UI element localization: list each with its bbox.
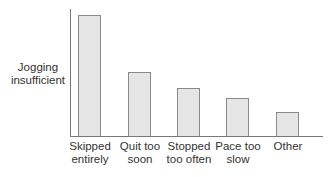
y-axis-line: [70, 9, 71, 137]
y-axis-label: Jogging insufficient: [0, 61, 76, 86]
x-tick-label: Other: [258, 140, 318, 153]
x-tick-label-line: slow: [208, 153, 268, 166]
bar-other: [276, 112, 299, 136]
x-axis-line: [70, 136, 323, 137]
bar-pace-too-slow: [226, 98, 249, 136]
bar-stopped-too-often: [177, 88, 200, 136]
bar-skipped-entirely: [78, 15, 101, 136]
y-axis-label-line-1: Jogging: [0, 61, 76, 74]
x-tick-label-line: Other: [258, 140, 318, 153]
y-axis-label-line-2: insufficient: [0, 74, 76, 87]
bar-quit-too-soon: [128, 72, 151, 136]
